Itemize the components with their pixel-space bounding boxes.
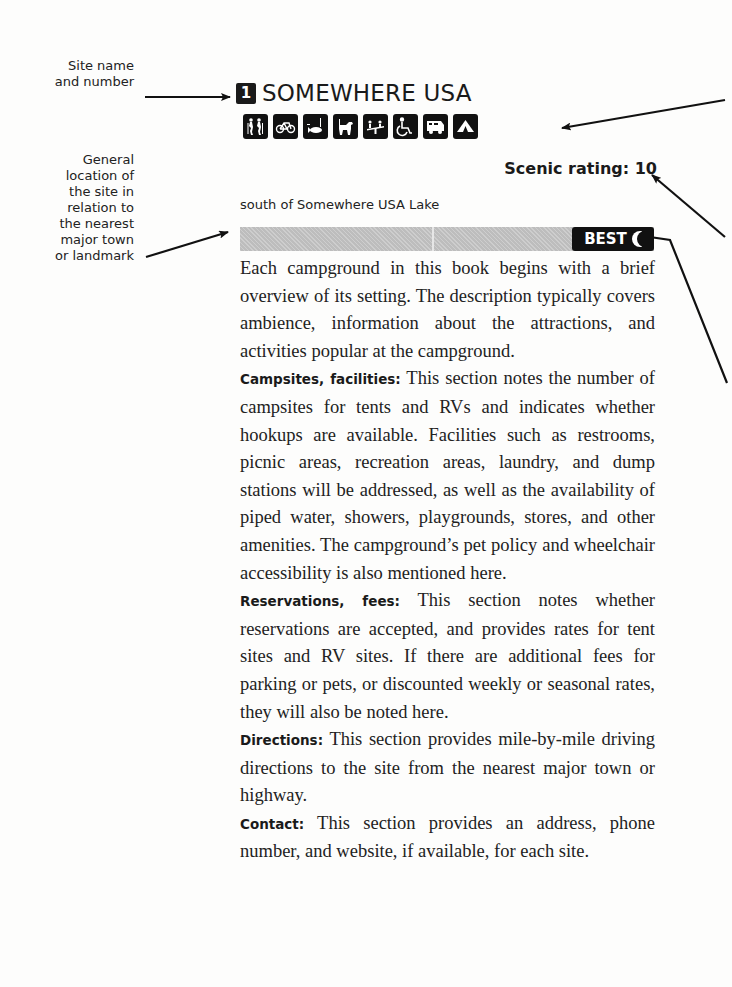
pets-icon	[333, 114, 358, 139]
callout-line: the site in	[55, 184, 134, 200]
section-directions: Directions: This section provides mile-b…	[240, 726, 655, 810]
callout-line: the nearest	[55, 216, 134, 232]
intro-paragraph: Each campground in this book begins with…	[240, 255, 655, 365]
site-number-badge: 1	[236, 83, 256, 104]
rv-icon	[423, 114, 448, 139]
section-reservations: Reservations, fees: This section notes w…	[240, 587, 655, 726]
callout-line: location of	[55, 168, 134, 184]
section-text: This section notes the number of campsit…	[240, 368, 655, 582]
section-label: Contact:	[240, 816, 304, 832]
site-title-row: 1 SOMEWHERE USA	[236, 80, 472, 106]
callout-line: major town	[55, 232, 134, 248]
section-contact: Contact: This section provides an addres…	[240, 810, 655, 866]
hiking-icon	[243, 114, 268, 139]
arrow-best	[643, 236, 727, 383]
site-name: SOMEWHERE USA	[262, 80, 472, 106]
section-label: Reservations, fees:	[240, 593, 400, 609]
callout-line: relation to	[55, 200, 134, 216]
playground-icon	[363, 114, 388, 139]
biking-icon	[273, 114, 298, 139]
callout-line: or landmark	[55, 248, 134, 264]
scenic-rating: Scenic rating: 10	[504, 159, 657, 178]
site-description: Each campground in this book begins with…	[240, 255, 655, 866]
general-location: south of Somewhere USA Lake	[240, 197, 439, 212]
section-text: This section notes whether reservations …	[240, 590, 655, 721]
arrow-icons	[562, 100, 725, 128]
arrow-scenic	[652, 175, 725, 237]
tent-icon	[453, 114, 478, 139]
amenity-icons	[243, 114, 478, 139]
best-label: BEST	[584, 230, 627, 248]
section-label: Campsites, facilities:	[240, 371, 401, 387]
section-campsites: Campsites, facilities: This section note…	[240, 365, 655, 587]
callout-line: General	[55, 152, 134, 168]
callout-line: Site name	[55, 58, 134, 74]
callout-line: and number	[55, 74, 134, 90]
section-label: Directions:	[240, 732, 323, 748]
callout-site-name: Site name and number	[55, 58, 134, 90]
best-bar: BEST	[240, 227, 654, 251]
moon-icon	[632, 231, 642, 247]
arrow-location	[146, 232, 228, 257]
wheelchair-icon	[393, 114, 418, 139]
callout-general-location: General location of the site in relation…	[55, 152, 134, 264]
fishing-icon	[303, 114, 328, 139]
bar-divider	[432, 227, 434, 251]
best-badge: BEST	[572, 227, 654, 251]
